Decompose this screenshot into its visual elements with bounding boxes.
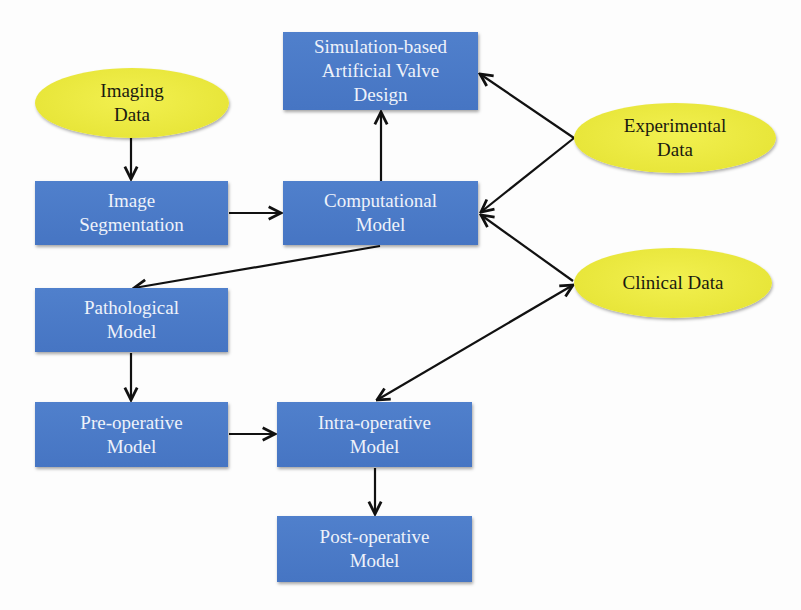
intra-operative-model-label: Intra-operative Model: [318, 411, 431, 459]
pathological-model-node: Pathological Model: [35, 288, 228, 352]
computational-model-node: Computational Model: [283, 181, 478, 245]
post-operative-model-label: Post-operative Model: [320, 525, 430, 573]
image-segmentation-node: Image Segmentation: [35, 181, 228, 245]
simulation-valve-design-label: Simulation-based Artificial Valve Design: [314, 35, 447, 107]
simulation-valve-design-node: Simulation-based Artificial Valve Design: [283, 32, 478, 110]
arrow-experimental-to-computational: [481, 138, 574, 212]
intra-operative-model-node: Intra-operative Model: [277, 402, 472, 467]
imaging-data-node: Imaging Data: [35, 68, 229, 138]
workflow-diagram: Imaging Data Experimental Data Clinical …: [0, 0, 801, 610]
arrow-clinical-to-computational: [481, 215, 573, 281]
post-operative-model-node: Post-operative Model: [277, 516, 472, 582]
arrow-computational-to-pathological: [134, 246, 380, 288]
image-segmentation-label: Image Segmentation: [79, 189, 183, 237]
experimental-data-label: Experimental Data: [624, 114, 726, 162]
clinical-data-node: Clinical Data: [574, 248, 772, 318]
pre-operative-model-label: Pre-operative Model: [80, 411, 182, 459]
computational-model-label: Computational Model: [324, 189, 437, 237]
clinical-data-label: Clinical Data: [623, 271, 724, 295]
pre-operative-model-node: Pre-operative Model: [35, 402, 228, 467]
experimental-data-node: Experimental Data: [574, 103, 776, 173]
arrow-experimental-to-simulation: [480, 74, 574, 138]
imaging-data-label: Imaging Data: [100, 79, 163, 127]
arrow-clinical-intraop-bidirectional: [377, 285, 573, 400]
pathological-model-label: Pathological Model: [84, 296, 179, 344]
